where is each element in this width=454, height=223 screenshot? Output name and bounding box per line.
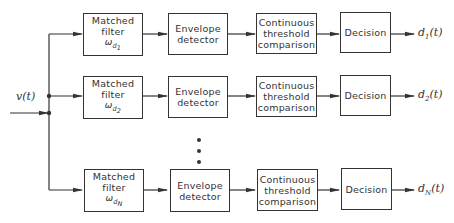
block-text: Matched (92, 78, 134, 89)
block-text: comparison (259, 196, 316, 207)
block-text: Continuous (259, 80, 315, 91)
block-text: Matched (93, 171, 135, 182)
block-text: Continuous (260, 174, 316, 185)
matched-filter-n: Matched filter ωdN (84, 169, 144, 212)
block-text: threshold (263, 28, 310, 39)
ellipsis-dot (197, 149, 201, 153)
block-text: filter (102, 182, 125, 193)
decision-2: Decision (340, 75, 391, 116)
block-text: threshold (264, 185, 311, 196)
block-text: Matched (92, 15, 134, 26)
block-text: Decision (345, 184, 387, 195)
ellipsis-dot (197, 160, 201, 164)
block-text: filter (101, 26, 124, 37)
ellipsis-dot (197, 138, 201, 142)
block-text: Envelope (177, 180, 222, 191)
decision-1: Decision (340, 12, 391, 53)
block-text: threshold (263, 91, 310, 102)
input-label: v(t) (16, 90, 35, 103)
junction-dot (47, 111, 51, 115)
block-text: Decision (344, 90, 386, 101)
decision-n: Decision (341, 168, 392, 210)
filter-symbol: ωd2 (105, 100, 121, 117)
output-label-1: d1(t) (418, 26, 443, 41)
block-text: Envelope (175, 23, 220, 34)
threshold-comparison-n: Continuous threshold comparison (257, 169, 318, 211)
matched-filter-2: Matched filter ωd2 (83, 76, 143, 119)
threshold-comparison-2: Continuous threshold comparison (256, 76, 317, 117)
junction-dot (47, 94, 51, 98)
block-text: filter (101, 89, 124, 100)
envelope-detector-1: Envelope detector (168, 13, 228, 55)
block-text: detector (177, 97, 219, 108)
output-label-n: dN(t) (418, 182, 444, 197)
block-text: detector (177, 34, 219, 45)
threshold-comparison-1: Continuous threshold comparison (256, 13, 317, 54)
block-text: Decision (344, 27, 386, 38)
envelope-detector-2: Envelope detector (168, 76, 228, 118)
block-text: detector (179, 191, 221, 202)
output-label-2: d2(t) (418, 88, 443, 103)
filter-symbol: ωdN (105, 193, 122, 210)
filter-symbol: ωd1 (105, 37, 121, 54)
block-text: Envelope (175, 86, 220, 97)
block-text: comparison (258, 102, 315, 113)
envelope-detector-n: Envelope detector (170, 169, 230, 212)
block-text: Continuous (259, 17, 315, 28)
block-text: comparison (258, 39, 315, 50)
matched-filter-1: Matched filter ωd1 (83, 13, 143, 56)
